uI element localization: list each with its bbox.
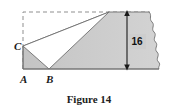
figure-diagram: 16 C A B Figure 14 xyxy=(0,0,178,112)
vertex-label-a: A xyxy=(19,73,27,85)
vertex-label-c: C xyxy=(14,40,22,52)
dimension-label: 16 xyxy=(132,36,144,47)
vertex-label-b: B xyxy=(45,73,53,85)
figure-caption: Figure 14 xyxy=(67,93,112,105)
figure-14-container: 16 C A B Figure 14 xyxy=(0,0,178,112)
